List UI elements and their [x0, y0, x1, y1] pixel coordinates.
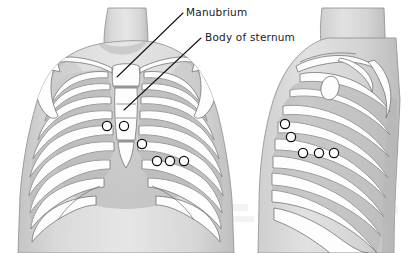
auscultation-marker[interactable]: [298, 148, 307, 157]
auscultation-marker[interactable]: [280, 119, 289, 128]
manubrium-bone: [112, 64, 140, 86]
anatomy-illustration: Manubrium Body of sternum: [0, 0, 418, 253]
body-of-sternum-label: Body of sternum: [205, 31, 295, 43]
auscultation-marker[interactable]: [179, 156, 188, 165]
auscultation-marker[interactable]: [152, 156, 161, 165]
auscultation-marker[interactable]: [314, 148, 323, 157]
auscultation-marker[interactable]: [286, 132, 295, 141]
auscultation-marker[interactable]: [165, 156, 174, 165]
body-of-sternum-bone: [115, 88, 138, 140]
auscultation-marker[interactable]: [329, 148, 338, 157]
manubrium-label: Manubrium: [186, 6, 247, 18]
auscultation-marker[interactable]: [102, 121, 111, 130]
auscultation-marker[interactable]: [119, 121, 128, 130]
auscultation-marker[interactable]: [137, 139, 146, 148]
anatomy-figure: Manubrium Body of sternum: [0, 0, 418, 253]
